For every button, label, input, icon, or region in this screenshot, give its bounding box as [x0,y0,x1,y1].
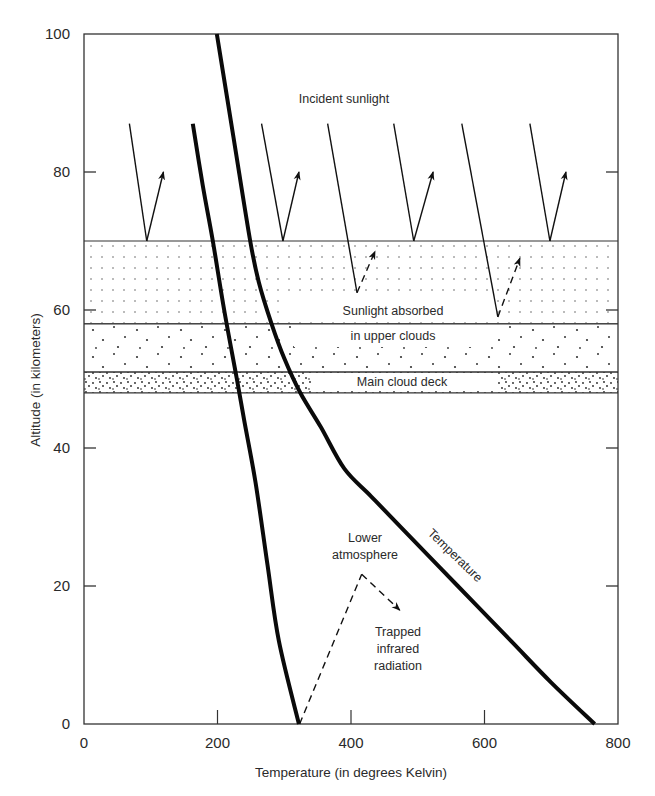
trapped-label-1: Trapped [375,625,421,639]
y-tick-label: 60 [53,301,70,318]
x-tick-label: 200 [205,734,230,751]
reflected-arrow-1 [262,124,299,241]
y-tick-label: 40 [53,439,70,456]
lower-atmosphere-label-2: atmosphere [332,548,398,562]
y-tick-label: 80 [53,163,70,180]
x-tick-label: 800 [605,734,630,751]
upper-clouds-label: in upper clouds [351,329,436,343]
main-cloud-deck-label: Main cloud deck [357,375,448,389]
x-tick-label: 400 [338,734,363,751]
y-axis-title: Altitude (in kilometers) [28,313,43,447]
x-tick-label: 600 [472,734,497,751]
lower-atmosphere-label-1: Lower [348,531,382,545]
sunlight-absorbed-label: Sunlight absorbed [343,304,444,318]
reflected-arrow-3 [394,124,433,241]
y-tick-label: 20 [53,577,70,594]
reflected-arrow-5 [530,124,566,241]
trapped-label-2: infrared [377,642,419,656]
x-tick-label: 0 [80,734,88,751]
venus-atmosphere-chart: 0204060801000200400600800 Incident sunli… [0,0,655,796]
radiation-arrows [129,124,566,724]
chart-canvas: 0204060801000200400600800 Incident sunli… [0,0,655,796]
trapped-label-3: radiation [374,659,422,673]
reflected-arrow-0 [129,124,163,241]
temperature-curve-label: Temperature [425,526,485,585]
y-tick-label: 100 [45,25,70,42]
y-tick-label: 0 [62,715,70,732]
incident-sunlight-label: Incident sunlight [299,92,390,106]
x-axis-title: Temperature (in degrees Kelvin) [255,765,447,780]
